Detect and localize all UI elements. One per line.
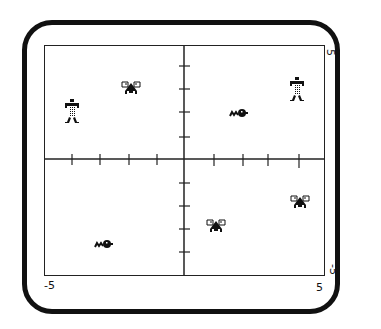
snake-sprite-icon bbox=[95, 240, 113, 248]
x-axis-ticks bbox=[72, 154, 299, 168]
person-sprite-icon bbox=[290, 77, 304, 101]
snake-sprite-icon bbox=[230, 109, 248, 117]
crab-sprite-icon bbox=[291, 196, 309, 208]
person-sprite-icon bbox=[65, 99, 79, 123]
y-max-label: 5 bbox=[325, 49, 336, 56]
x-max-label: 5 bbox=[316, 282, 323, 293]
x-min-label: -5 bbox=[44, 280, 55, 291]
crab-sprite-icon bbox=[122, 82, 140, 94]
y-min-label: -5 bbox=[328, 264, 339, 275]
crab-sprite-icon bbox=[207, 220, 225, 232]
